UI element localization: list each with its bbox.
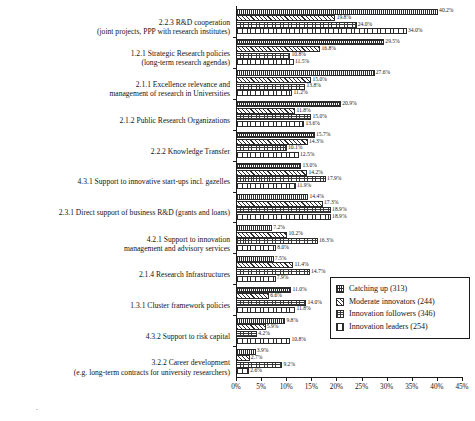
category-label: 2.1.1 Excellence relevance and managemen… <box>0 80 230 98</box>
bar-value-label: 7.5% <box>274 255 287 262</box>
bar-2[interactable] <box>236 176 326 182</box>
category-label: 2.1.4 Research Infrastructures <box>0 270 230 279</box>
bar-row: 7.2% <box>236 225 462 231</box>
category-separator-tick <box>233 37 237 38</box>
bar-2[interactable] <box>236 22 357 28</box>
chart-legend: Catching up (313)Moderate innovators (24… <box>330 277 470 339</box>
bar-1[interactable] <box>236 170 307 176</box>
bar-group: 13.0%14.2%17.9%11.9% <box>236 163 462 189</box>
page-footer-mark: . <box>36 404 38 412</box>
legend-item[interactable]: Moderate innovators (244) <box>336 297 464 307</box>
x-tick <box>236 377 237 381</box>
bar-3[interactable] <box>236 28 407 34</box>
bar-row: 11.2% <box>236 90 462 96</box>
bar-3[interactable] <box>236 183 296 189</box>
bar-0[interactable] <box>236 194 308 200</box>
category-separator-tick <box>233 130 237 131</box>
bar-3[interactable] <box>236 368 249 374</box>
category-separator-tick <box>233 284 237 285</box>
x-tick <box>261 377 262 381</box>
bar-group: 14.4%17.3%18.9%18.9% <box>236 194 462 220</box>
bar-1[interactable] <box>236 15 335 21</box>
category-separator-tick <box>233 253 237 254</box>
category-label-column: 2.2.3 R&D cooperation (joint projects, P… <box>0 6 234 377</box>
bar-1[interactable] <box>236 201 323 207</box>
bar-value-label: 18.9% <box>331 213 347 220</box>
category-label: 2.3.1 Direct support of business R&D (gr… <box>0 208 230 217</box>
bar-row: 18.9% <box>236 207 462 213</box>
bar-0[interactable] <box>236 256 274 262</box>
bar-3[interactable] <box>236 245 276 251</box>
bar-row: 10.1% <box>236 145 462 151</box>
bar-0[interactable] <box>236 132 315 138</box>
bar-row: 13.6% <box>236 121 462 127</box>
bar-value-label: 6.6% <box>269 292 282 299</box>
bar-value-label: 14.2% <box>307 169 323 176</box>
bar-2[interactable] <box>236 207 331 213</box>
bar-value-label: 27.6% <box>375 69 391 76</box>
bar-3[interactable] <box>236 276 276 282</box>
bar-2[interactable] <box>236 114 311 120</box>
bar-1[interactable] <box>236 77 311 83</box>
bar-value-label: 13.6% <box>304 120 320 127</box>
x-tick-label: 0% <box>231 383 241 392</box>
bar-value-label: 16.3% <box>318 237 334 244</box>
bar-row: 10.2% <box>236 232 462 238</box>
bar-2[interactable] <box>236 145 287 151</box>
legend-item[interactable]: Catching up (313) <box>336 284 464 294</box>
bar-row: 14.4% <box>236 194 462 200</box>
bar-row: 14.7% <box>236 269 462 275</box>
legend-item[interactable]: Innovation followers (346) <box>336 309 464 319</box>
legend-swatch-icon <box>336 298 344 306</box>
bar-group: 20.9%11.8%15.0%13.6% <box>236 101 462 127</box>
bar-0[interactable] <box>236 225 272 231</box>
bar-row: 13.8% <box>236 84 462 90</box>
category-separator-tick <box>233 192 237 193</box>
bar-0[interactable] <box>236 287 291 293</box>
bar-row: 16.3% <box>236 238 462 244</box>
bar-1[interactable] <box>236 293 269 299</box>
bar-value-label: 16.8% <box>320 45 336 52</box>
bar-row: 29.5% <box>236 39 462 45</box>
bar-value-label: 14.4% <box>308 193 324 200</box>
bar-value-label: 34.0% <box>407 27 423 34</box>
x-tick <box>387 377 388 381</box>
category-label: 4.2.1 Support to innovation management a… <box>0 235 230 253</box>
bar-1[interactable] <box>236 108 295 114</box>
bar-3[interactable] <box>236 214 331 220</box>
bar-1[interactable] <box>236 232 287 238</box>
bar-row: 18.9% <box>236 214 462 220</box>
bar-0[interactable] <box>236 101 341 107</box>
bar-group: 7.2%10.2%16.3%8.0% <box>236 225 462 251</box>
bar-1[interactable] <box>236 46 320 52</box>
bar-2[interactable] <box>236 331 257 337</box>
bar-3[interactable] <box>236 59 294 65</box>
bar-row: 2.7% <box>236 355 462 361</box>
legend-item[interactable]: Innovation leaders (254) <box>336 322 464 332</box>
category-label: 3.2.2 Career development (e.g. long-term… <box>0 358 230 376</box>
legend-swatch-icon <box>336 285 344 293</box>
bar-row: 14.3% <box>236 139 462 145</box>
bar-row: 24.0% <box>236 22 462 28</box>
category-separator-tick <box>233 315 237 316</box>
legend-label: Innovation leaders (254) <box>349 322 428 332</box>
x-tick <box>437 377 438 381</box>
bar-3[interactable] <box>236 121 304 127</box>
bar-chart: 2.2.3 R&D cooperation (joint projects, P… <box>0 0 475 421</box>
category-label: 2.2.3 R&D cooperation (joint projects, P… <box>0 18 230 36</box>
bar-0[interactable] <box>236 70 375 76</box>
bar-3[interactable] <box>236 152 299 158</box>
x-tick <box>462 377 463 381</box>
bar-0[interactable] <box>236 39 384 45</box>
bar-2[interactable] <box>236 53 290 59</box>
bar-row: 11.9% <box>236 183 462 189</box>
bar-1[interactable] <box>236 355 250 361</box>
bar-3[interactable] <box>236 338 290 344</box>
bar-3[interactable] <box>236 307 295 313</box>
bar-3[interactable] <box>236 90 292 96</box>
bar-2[interactable] <box>236 269 310 275</box>
bar-0[interactable] <box>236 163 301 169</box>
bar-1[interactable] <box>236 262 293 268</box>
bar-value-label: 10.8% <box>290 336 306 343</box>
bar-row: 19.8% <box>236 15 462 21</box>
